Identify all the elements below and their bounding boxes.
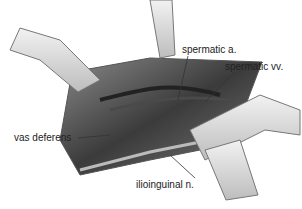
label-spermatic-veins: spermatic vv. xyxy=(225,61,283,72)
top-retractor xyxy=(150,0,175,58)
label-spermatic-artery: spermatic a. xyxy=(182,44,236,55)
surgical-illustration xyxy=(0,0,302,209)
label-ilioinguinal-nerve: ilioinguinal n. xyxy=(136,179,194,190)
left-retractor xyxy=(10,28,100,92)
label-vas-deferens: vas deferens xyxy=(14,132,71,143)
